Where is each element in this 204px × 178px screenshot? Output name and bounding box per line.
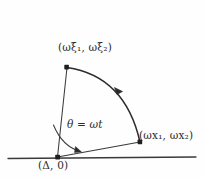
diagram-canvas [0, 0, 204, 178]
endpoint-dot-xi [64, 65, 69, 70]
horizontal-axis-line [8, 157, 196, 159]
label-origin-point: (Δ, 0) [38, 160, 68, 171]
label-x-point: (ωx₁, ωx₂) [139, 130, 193, 141]
arc-direction-arrowhead [115, 88, 123, 95]
label-angle-theta: θ = ωt [67, 119, 103, 130]
circular-arc-curve [67, 68, 140, 143]
angle-direction-arrowhead [75, 147, 82, 153]
radius-line-to-x [58, 142, 141, 157]
rotation-arc-diagram: (ωξ₁, ωξ₂) (ωx₁, ωx₂) θ = ωt (Δ, 0) [0, 0, 204, 178]
label-xi-point: (ωξ₁, ωξ₂) [58, 42, 112, 53]
